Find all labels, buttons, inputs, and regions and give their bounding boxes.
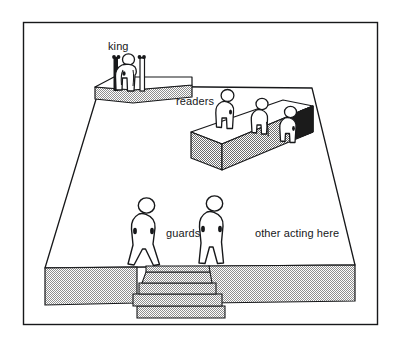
- stage-illustration: [0, 0, 401, 346]
- label-king: king: [108, 41, 129, 52]
- label-readers: readers: [176, 96, 214, 107]
- label-other-acting-here: other acting here: [255, 228, 339, 239]
- label-guards: guards: [166, 228, 200, 239]
- stage-diagram: king readers guards other acting here: [0, 0, 401, 346]
- king-figure: [112, 54, 146, 91]
